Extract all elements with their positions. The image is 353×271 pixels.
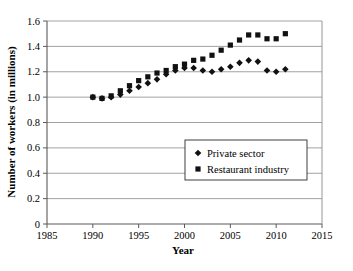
x-axis-title: Year: [172, 244, 194, 256]
y-tick-label: 1.4: [27, 41, 41, 52]
data-point: [154, 70, 159, 75]
x-axis-tick-labels: 1985199019952000200520102015: [37, 230, 333, 241]
data-point: [246, 32, 251, 37]
data-point: [191, 58, 196, 63]
legend-label: Restaurant industry: [207, 164, 290, 175]
data-point: [200, 56, 205, 61]
data-point: [227, 63, 234, 70]
y-tick-label: 0.2: [27, 193, 40, 204]
data-point: [135, 84, 142, 91]
data-point: [255, 58, 262, 65]
data-point: [145, 74, 150, 79]
y-tick-label: 0.6: [27, 142, 40, 153]
data-point: [255, 32, 260, 37]
y-tick-label: 1.0: [27, 92, 40, 103]
chart-figure: 1985199019952000200520102015 00.20.40.60…: [0, 0, 353, 271]
data-point: [236, 60, 243, 67]
data-point: [264, 67, 271, 74]
data-point: [237, 37, 242, 42]
chart-legend: Private sectorRestaurant industry: [185, 140, 307, 180]
data-point: [154, 76, 161, 83]
data-point: [126, 87, 133, 94]
data-point: [228, 43, 233, 48]
data-point: [273, 68, 280, 75]
legend-marker-square-icon: [195, 166, 200, 171]
data-point: [209, 53, 214, 58]
legend-label: Private sector: [207, 148, 265, 159]
y-tick-label: 1.2: [27, 66, 40, 77]
x-tick-label: 2015: [312, 230, 333, 241]
data-point: [200, 67, 207, 74]
data-point: [245, 57, 252, 64]
data-point: [283, 31, 288, 36]
data-point: [136, 78, 141, 83]
y-axis-ticks: [43, 21, 47, 224]
y-tick-label: 1.6: [27, 16, 40, 27]
data-point: [145, 80, 152, 87]
x-tick-label: 1985: [37, 230, 58, 241]
series-restaurant-industry: [90, 31, 288, 101]
y-tick-label: 0: [35, 219, 40, 230]
x-tick-label: 2005: [220, 230, 241, 241]
x-axis-ticks: [47, 224, 322, 228]
series-private-sector: [90, 57, 289, 102]
x-tick-label: 1995: [128, 230, 149, 241]
x-tick-label: 2010: [266, 230, 287, 241]
y-axis-title: Number of workers (in millions): [5, 46, 18, 198]
data-point: [190, 65, 197, 72]
x-tick-label: 1990: [82, 230, 103, 241]
data-point: [219, 48, 224, 53]
y-axis-tick-labels: 00.20.40.60.81.01.21.41.6: [27, 16, 41, 230]
data-point: [209, 68, 216, 75]
y-tick-label: 0.4: [27, 168, 41, 179]
y-tick-label: 0.8: [27, 117, 40, 128]
chart-plot-area: 1985199019952000200520102015 00.20.40.60…: [0, 0, 353, 271]
x-tick-label: 2000: [174, 230, 195, 241]
data-point: [264, 36, 269, 41]
data-point: [274, 36, 279, 41]
